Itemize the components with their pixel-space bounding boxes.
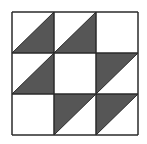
grid-cell bbox=[96, 12, 138, 53]
quilt-grid-diagram bbox=[0, 0, 147, 144]
grid-cell bbox=[12, 94, 54, 135]
grid-cell bbox=[54, 53, 96, 94]
